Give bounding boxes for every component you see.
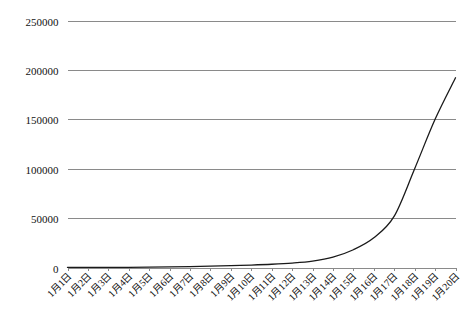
y-axis-tick-label: 150000 — [26, 114, 60, 126]
y-axis-tick-label: 50000 — [31, 213, 59, 225]
y-axis-tick-label: 0 — [53, 263, 59, 275]
y-axis-tick-label: 250000 — [26, 16, 60, 28]
y-axis-tick-label: 200000 — [26, 65, 60, 77]
line-chart: 050000100000150000200000250000 1月1日1月2日1… — [0, 0, 475, 324]
chart-container: 050000100000150000200000250000 1月1日1月2日1… — [0, 0, 475, 324]
y-axis-tick-label: 100000 — [26, 164, 60, 176]
